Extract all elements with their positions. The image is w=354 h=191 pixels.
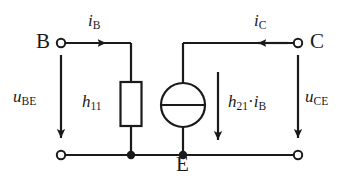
voltage-label-uce-subscript: CE [314, 95, 329, 107]
current-label-ib-subscript: B [93, 19, 101, 31]
component-label-h21-symbol: h [228, 92, 237, 111]
current-label-ic-subscript: C [259, 19, 267, 31]
resistor-h11-symbol [121, 82, 142, 126]
terminal-label-base: B [36, 31, 50, 52]
voltage-label-uce: uCE [305, 88, 328, 105]
terminal-node-collector[interactable] [294, 39, 302, 47]
voltage-label-uce-symbol: u [305, 87, 314, 106]
component-label-h11-subscript: 11 [91, 100, 102, 112]
terminal-label-emitter: E [176, 154, 189, 175]
component-label-h11-symbol: h [82, 92, 91, 111]
voltage-label-ube-symbol: u [13, 87, 22, 106]
component-label-h21-subscript: 21 [237, 100, 249, 112]
terminal-node-emitter-left[interactable] [57, 151, 65, 159]
component-label-h21-current-subscript: B [258, 100, 266, 112]
voltage-label-ube-subscript: BE [22, 95, 37, 107]
circuit-diagram: B C E iB iC uBE uCE h11 h21·iB [0, 0, 354, 191]
component-label-h11: h11 [82, 93, 102, 110]
voltage-label-ube: uBE [13, 88, 36, 105]
junction-dot-resistor [127, 151, 135, 159]
current-label-ib: iB [88, 12, 100, 29]
current-label-ic: iC [254, 12, 266, 29]
component-label-h21-ib: h21·iB [228, 93, 266, 110]
terminal-label-collector: C [310, 31, 324, 52]
terminal-node-base[interactable] [57, 39, 65, 47]
terminal-node-emitter-right[interactable] [294, 151, 302, 159]
